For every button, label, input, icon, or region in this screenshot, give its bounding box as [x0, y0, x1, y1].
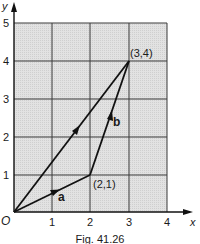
y-axis-arrow-icon: [11, 2, 17, 12]
x-tick-labels: 1 2 3 4: [49, 216, 170, 228]
svg-text:4: 4: [3, 55, 9, 67]
svg-text:4: 4: [164, 216, 170, 228]
vector-a-label: a: [58, 190, 65, 204]
svg-text:3: 3: [126, 216, 132, 228]
svg-text:2: 2: [87, 216, 93, 228]
origin-label: O: [1, 214, 10, 228]
figure-caption: Fig. 41.26: [76, 233, 125, 244]
vector-diagram: 1 2 3 4 1 2 3 4 5 x y O (2,1) (3,4) a b …: [0, 0, 200, 244]
point-label-2-1: (2,1): [93, 178, 116, 190]
point-label-3-4: (3,4): [130, 47, 153, 59]
x-axis-label: x: [189, 216, 196, 228]
svg-text:1: 1: [49, 216, 55, 228]
y-tick-labels: 1 2 3 4 5: [3, 17, 9, 181]
svg-text:3: 3: [3, 93, 9, 105]
vector-b-label: b: [113, 115, 120, 129]
svg-text:5: 5: [3, 17, 9, 29]
y-axis-label: y: [1, 0, 9, 12]
svg-text:2: 2: [3, 131, 9, 143]
x-axis-arrow-icon: [183, 209, 193, 215]
svg-text:1: 1: [3, 169, 9, 181]
